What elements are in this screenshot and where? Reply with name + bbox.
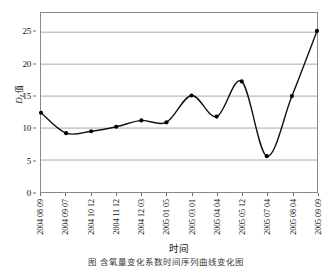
data-point-marker: 2004 08 09: 12.4 [39, 111, 43, 115]
y-axis-title-suffix: 值 [15, 85, 24, 93]
x-tick-label: 2005 05 12 [238, 199, 247, 235]
data-point-marker: 2004 12 03: 11.2 [139, 118, 143, 122]
y-axis-title-symbol: D [14, 97, 24, 104]
x-axis-title: 时间 [40, 243, 318, 254]
x-tick-mark [40, 193, 41, 196]
x-tick-label: 2004 11 12 [111, 199, 120, 235]
x-tick-label: 2005 09 09 [314, 199, 323, 235]
figure-caption: 图 含氧量变化系数时间序列曲线变化图 [0, 257, 332, 267]
x-tick: 2004 10 12 [85, 194, 97, 242]
x-tick-mark [166, 193, 167, 196]
y-axis-title-subscript: L [18, 93, 26, 97]
y-tick-mark [33, 31, 36, 32]
x-axis: 2004 08 092004 09 072004 10 122004 11 12… [40, 194, 318, 242]
x-tick: 2005 05 12 [236, 194, 248, 242]
x-tick-label: 2004 12 03 [137, 199, 146, 235]
data-point-marker: 2005 07 04: 5.6 [265, 154, 269, 158]
data-point-marker: 2004 10 12: 9.5 [89, 129, 93, 133]
y-tick-mark [33, 160, 36, 161]
y-tick-label: 25 [22, 27, 31, 36]
x-tick: 2004 08 09 [34, 194, 46, 242]
x-tick: 2005 01 05 [160, 194, 172, 242]
x-tick-mark [217, 193, 218, 196]
x-tick-label: 2005 07 04 [263, 199, 272, 235]
data-point-marker: 2005 03 01: 15.1 [189, 93, 193, 97]
data-point-marker: 2005 04 04: 11.8 [215, 114, 219, 118]
x-tick-mark [242, 193, 243, 196]
y-tick-mark [33, 63, 36, 64]
y-tick-mark [33, 128, 36, 129]
data-point-marker: 2004 11 12: 10.2 [114, 125, 118, 129]
data-point-marker: 2004 09 07: 9.2 [64, 131, 68, 135]
x-tick: 2004 12 03 [135, 194, 147, 242]
x-tick-label: 2005 04 04 [212, 199, 221, 235]
y-tick-label: 10 [22, 124, 31, 133]
x-tick: 2005 03 01 [186, 194, 198, 242]
data-point-marker: 2005 01 05: 10.9 [164, 120, 168, 124]
data-series-line: 2004 08 09: 12.42004 09 07: 9.22004 10 1… [41, 13, 317, 192]
y-tick-label: 0 [27, 189, 31, 198]
x-tick: 2005 09 09 [312, 194, 324, 242]
x-tick-mark [267, 193, 268, 196]
x-tick-mark [293, 193, 294, 196]
x-tick-label: 2004 09 07 [61, 199, 70, 235]
x-tick: 2005 08 04 [287, 194, 299, 242]
x-tick-mark [91, 193, 92, 196]
x-tick-label: 2004 08 09 [36, 199, 45, 235]
x-tick-mark [116, 193, 117, 196]
x-tick-label: 2005 08 04 [288, 199, 297, 235]
data-point-marker: 2005 05 12: 17.3 [240, 79, 244, 83]
x-tick: 2005 04 04 [211, 194, 223, 242]
data-point-marker: 2005 09 09: 25.2 [315, 29, 319, 33]
x-tick: 2005 07 04 [261, 194, 273, 242]
x-tick: 2004 11 12 [110, 194, 122, 242]
x-tick-label: 2005 03 01 [187, 199, 196, 235]
series-line [41, 31, 317, 156]
x-tick-label: 2005 01 05 [162, 199, 171, 235]
y-tick-mark [33, 96, 36, 97]
y-tick-label: 5 [27, 156, 31, 165]
data-point-marker: 2005 08 04: 15 [290, 94, 294, 98]
y-axis-title: DL值 [14, 70, 27, 120]
x-tick: 2004 09 07 [59, 194, 71, 242]
x-tick-mark [318, 193, 319, 196]
plot-area: 2004 08 09: 12.42004 09 07: 9.22004 10 1… [40, 12, 318, 193]
x-tick-mark [192, 193, 193, 196]
y-tick-label: 20 [22, 59, 31, 68]
x-tick-mark [141, 193, 142, 196]
x-tick-label: 2004 10 12 [86, 199, 95, 235]
x-tick-mark [65, 193, 66, 196]
